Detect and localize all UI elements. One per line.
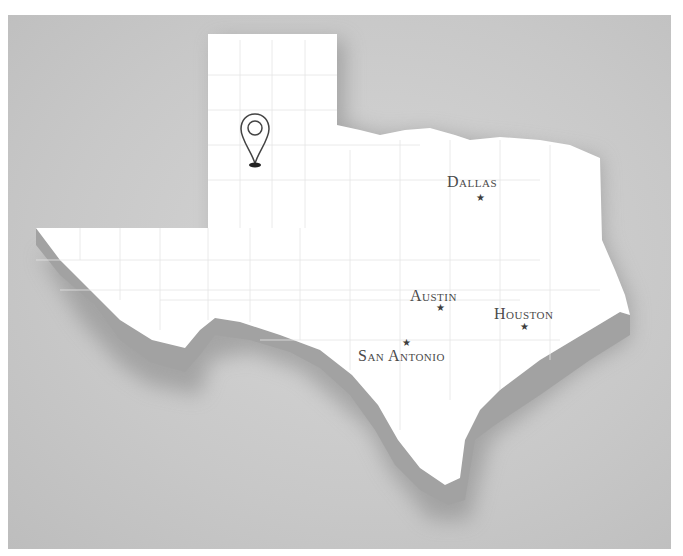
- city-marker-austin-star-icon[interactable]: ★: [436, 303, 445, 313]
- city-marker-houston-star-icon[interactable]: ★: [520, 322, 529, 332]
- location-pin-icon[interactable]: [238, 112, 272, 170]
- city-marker-dallas-star-icon[interactable]: ★: [476, 193, 485, 203]
- city-label-austin: Austin: [410, 287, 457, 305]
- map-frame: Dallas ★ Austin ★ Houston ★ ★ San Antoni…: [8, 15, 671, 549]
- city-label-san-antonio: San Antonio: [358, 347, 445, 365]
- texas-map[interactable]: [8, 15, 671, 549]
- city-label-dallas: Dallas: [447, 173, 497, 191]
- texas-land: [36, 34, 630, 485]
